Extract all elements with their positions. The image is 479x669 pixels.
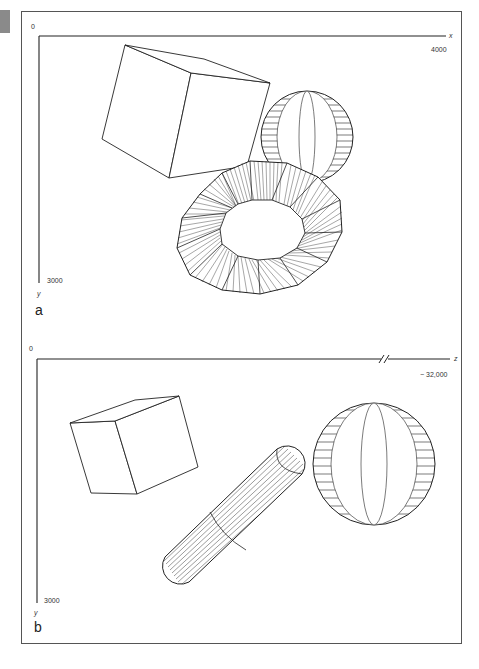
panel-b-sphere — [310, 403, 440, 525]
figure-artwork — [0, 0, 479, 669]
panel-b-z-max-label: − 32,000 — [420, 371, 447, 378]
panel-a-y-max-label: 3000 — [47, 277, 63, 284]
panel-b-y-axis-label: y — [34, 609, 38, 616]
panel-a-x-axis-label: x — [449, 32, 453, 39]
panel-a-letter: a — [35, 303, 43, 317]
panel-b-origin-label: 0 — [29, 345, 33, 352]
panel-a-cube — [102, 45, 270, 178]
panel-a-torus — [177, 161, 342, 294]
panel-b-z-axis-label: z — [454, 355, 458, 362]
panel-b-letter: b — [34, 620, 42, 634]
panel-b-cube — [70, 396, 198, 494]
panel-a-x-max-label: 4000 — [431, 46, 447, 53]
panel-b-y-max-label: 3000 — [44, 597, 60, 604]
panel-a-y-axis-label: y — [37, 290, 41, 297]
panel-a-origin-label: 0 — [31, 23, 35, 30]
